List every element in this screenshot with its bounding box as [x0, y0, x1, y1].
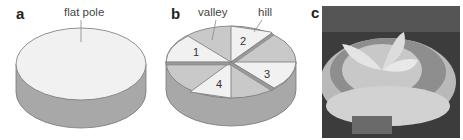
sector-pole-disc: 1 2 3 4: [166, 20, 296, 126]
flat-pole-disc: [16, 20, 146, 128]
svg-text:4: 4: [216, 78, 222, 90]
svg-text:2: 2: [240, 35, 246, 47]
svg-text:3: 3: [264, 68, 270, 80]
svg-text:1: 1: [193, 46, 199, 58]
cyclotron-photo: [322, 6, 460, 138]
